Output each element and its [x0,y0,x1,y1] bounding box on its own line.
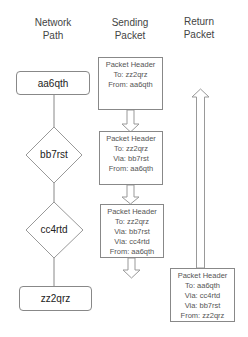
packet-line: Via: cc4rtd [171,291,234,301]
packet-line: From: aa6qth [99,80,162,90]
node-cc4rtd: cc4rtd [29,224,79,235]
packet-line: From: aa6qth [100,164,162,174]
packet-line: Packet Header [99,60,162,70]
up-arrow-icon [192,89,209,268]
node-bb7rst: bb7rst [29,149,79,160]
packet-line: To: zz2qrz [101,217,163,227]
packet-line: Via: cc4rtd [101,237,163,247]
node-zz2qrz: zz2qrz [19,286,92,311]
return-packet: Packet Header To: aa6qth Via: cc4rtd Via… [170,268,235,322]
down-arrow-icon [122,110,139,132]
down-arrow-icon [123,258,140,278]
sending-packet-2: Packet Header To: zz2qrz Via: bb7rst Fro… [99,131,163,185]
packet-line: Packet Header [171,271,234,281]
node-label: cc4rtd [40,224,67,235]
packet-line: Via: bb7rst [100,154,162,164]
sending-packet-3: Packet Header To: zz2qrz Via: bb7rst Via… [100,204,164,258]
packet-line: To: zz2qrz [99,70,162,80]
packet-line: To: aa6qth [171,281,234,291]
node-label: bb7rst [40,149,68,160]
packet-line: Via: bb7rst [101,227,163,237]
packet-line: From: aa6qth [101,247,163,257]
down-arrow-icon [122,185,139,204]
packet-line: To: zz2qrz [100,144,162,154]
packet-line: From: zz2qrz [171,311,234,321]
packet-line: Via: bb7rst [171,301,234,311]
packet-line: Packet Header [101,207,163,217]
packet-line: Packet Header [100,134,162,144]
node-label: zz2qrz [41,293,70,304]
node-label: aa6qth [38,78,69,89]
sending-packet-1: Packet Header To: zz2qrz From: aa6qth [98,57,163,110]
node-aa6qth: aa6qth [16,71,90,95]
